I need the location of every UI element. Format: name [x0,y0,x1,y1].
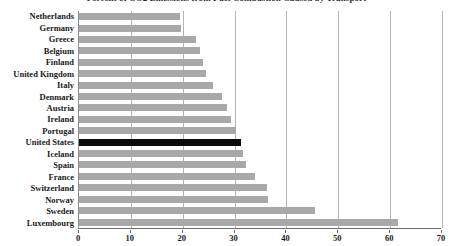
y-axis-label: Norway [0,197,76,204]
gridline-70 [442,11,443,228]
bar-row [79,161,441,168]
bar [79,219,398,226]
bar [79,161,246,168]
bar-row [79,207,441,214]
bar [79,59,203,66]
y-axis-label: Belgium [0,48,76,55]
bar [79,36,196,43]
chart-container: Percent of CO2 Emissions from Fuel Combu… [0,0,453,246]
y-axis-label: Ireland [0,116,76,123]
bar [79,82,213,89]
bar [79,184,267,191]
bar-row [79,13,441,20]
bar-row [79,196,441,203]
bar-row [79,47,441,54]
bar [79,139,241,146]
tick-label-60: 60 [385,233,394,243]
bar [79,104,227,111]
bar-row [79,184,441,191]
bar-row [79,36,441,43]
x-axis-ticks: 010203040506070 [78,230,441,244]
bar [79,70,206,77]
tick-label-20: 20 [177,233,186,243]
chart-title: Percent of CO2 Emissions from Fuel Combu… [0,0,453,3]
y-axis-label: Austria [0,105,76,112]
bar-row [79,219,441,226]
bar-row [79,25,441,32]
bar [79,207,315,214]
y-axis-label: Luxembourg [0,220,76,227]
y-axis-label: Switzerland [0,185,76,192]
bar-row [79,93,441,100]
bar [79,93,222,100]
y-axis-label: Germany [0,25,76,32]
tick-label-50: 50 [333,233,342,243]
tick-label-10: 10 [126,233,135,243]
y-axis-category-labels: NetherlandsGermanyGreeceBelgiumFinlandUn… [0,11,76,229]
bar-row [79,127,441,134]
y-axis-label: Italy [0,82,76,89]
y-axis-label: United States [0,139,76,146]
tick-label-70: 70 [437,233,446,243]
bar-row [79,82,441,89]
bar [79,127,236,134]
bar-row [79,173,441,180]
y-axis-label: Finland [0,59,76,66]
bar-row [79,139,441,146]
bar-row [79,70,441,77]
y-axis-label: Denmark [0,94,76,101]
y-axis-label: Sweden [0,208,76,215]
bar [79,25,181,32]
y-axis-label: Netherlands [0,13,76,20]
bar-row [79,104,441,111]
bar-row [79,59,441,66]
y-axis-label: Greece [0,36,76,43]
y-axis-label: Spain [0,162,76,169]
bar-row [79,116,441,123]
bar [79,47,200,54]
bar [79,13,180,20]
y-axis-label: Portugal [0,128,76,135]
bar [79,173,255,180]
y-axis-label: France [0,174,76,181]
y-axis-label: United Kingdom [0,71,76,78]
plot-area [78,11,441,229]
bar-row [79,150,441,157]
bar [79,150,243,157]
tick-label-40: 40 [281,233,290,243]
tick-label-0: 0 [76,233,80,243]
bar [79,196,268,203]
tick-label-30: 30 [229,233,238,243]
bar [79,116,231,123]
y-axis-label: Iceland [0,151,76,158]
bar-rows [79,11,441,228]
